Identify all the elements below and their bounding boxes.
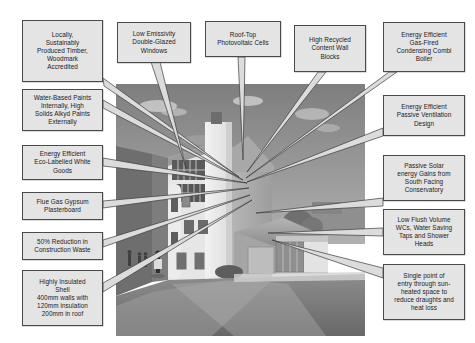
callout-water-based-paints-label: Water-Based Paints Internally, High Soli… [26, 94, 99, 126]
callout-timber-label: Locally, Sustainably Produced Timber, Wo… [26, 31, 99, 71]
callout-recycled-wall-blocks[interactable]: High Recycled Content Wall Blocks [294, 25, 366, 72]
callout-rooftop-photovoltaic-label: Roof-Top Photovoltaic Cells [209, 31, 277, 47]
callout-highly-insulated-shell-label: Highly Insulated Shell 400mm walls with … [26, 278, 99, 318]
callout-passive-solar-gains[interactable]: Passive Solar energy Gains from South Fa… [383, 155, 465, 201]
callout-low-emissivity-windows[interactable]: Low Emissivity Double-Glazed Windows [117, 22, 191, 63]
callout-rooftop-photovoltaic[interactable]: Roof-Top Photovoltaic Cells [205, 21, 281, 57]
callout-flue-gas-gypsum-plasterboard[interactable]: Flue Gas Gypsum Plasterboard [22, 192, 103, 220]
building-photograph [116, 84, 365, 336]
diagram-canvas: Locally, Sustainably Produced Timber, Wo… [0, 0, 475, 343]
callout-single-entry-point[interactable]: Single point of entry through sun- heate… [383, 264, 465, 320]
callout-low-emissivity-windows-label: Low Emissivity Double-Glazed Windows [121, 30, 187, 54]
callout-condensing-combi-boiler-label: Energy Efficient Gas-Fired Condensing Co… [387, 31, 461, 63]
callout-passive-ventilation-label: Energy Efficient Passive Ventilation Des… [387, 103, 461, 127]
callout-flue-gas-gypsum-plasterboard-label: Flue Gas Gypsum Plasterboard [26, 198, 99, 214]
callout-low-flush-water-saving[interactable]: Low Flush Volume WCs, Water Saving Taps … [383, 209, 465, 255]
callout-construction-waste-reduction-label: 50% Reduction in Construction Waste [26, 238, 99, 254]
callout-low-flush-water-saving-label: Low Flush Volume WCs, Water Saving Taps … [387, 216, 461, 248]
callout-passive-ventilation[interactable]: Energy Efficient Passive Ventilation Des… [383, 95, 465, 136]
callout-single-entry-point-label: Single point of entry through sun- heate… [387, 272, 461, 312]
callout-timber[interactable]: Locally, Sustainably Produced Timber, Wo… [22, 20, 103, 82]
callout-eco-labelled-white-goods-label: Energy Efficient Eco-Labelled White Good… [26, 150, 99, 174]
callout-highly-insulated-shell[interactable]: Highly Insulated Shell 400mm walls with … [22, 270, 103, 326]
callout-passive-solar-gains-label: Passive Solar energy Gains from South Fa… [387, 162, 461, 194]
callout-eco-labelled-white-goods[interactable]: Energy Efficient Eco-Labelled White Good… [22, 145, 103, 180]
callout-condensing-combi-boiler[interactable]: Energy Efficient Gas-Fired Condensing Co… [383, 22, 465, 72]
callout-water-based-paints[interactable]: Water-Based Paints Internally, High Soli… [22, 89, 103, 131]
callout-recycled-wall-blocks-label: High Recycled Content Wall Blocks [298, 36, 362, 60]
callout-construction-waste-reduction[interactable]: 50% Reduction in Construction Waste [22, 232, 103, 260]
